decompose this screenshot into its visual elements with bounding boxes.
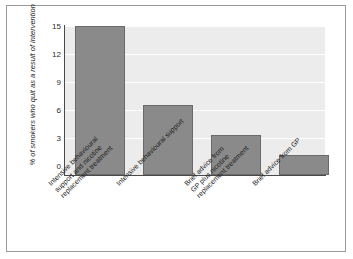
bar-series: [65, 26, 325, 175]
bar-intensive-behavioural-support[interactable]: [143, 105, 193, 175]
y-axis-line: [64, 25, 65, 176]
bar-brief-advice-from-gp[interactable]: [279, 155, 329, 175]
y-tick-label-3: 3: [43, 134, 61, 143]
bar-brief-advice-gp-plus-nrt[interactable]: [211, 135, 261, 175]
y-axis-ticks: 15 12 9 6 3 0: [37, 26, 61, 175]
y-tick-label-15: 15: [43, 22, 61, 31]
x-axis-line: [64, 175, 326, 176]
y-tick-label-9: 9: [43, 78, 61, 87]
plot-area: [65, 26, 325, 175]
y-tick-label-6: 6: [43, 106, 61, 115]
y-axis-title: % of smokers who quit as a result of int…: [28, 8, 37, 166]
bar-intensive-behavioural-support-and-nrt[interactable]: [75, 26, 125, 175]
figure-frame: 15 12 9 6 3 0 % of smokers who quit as a…: [6, 5, 346, 252]
y-tick-label-12: 12: [43, 50, 61, 59]
y-tick-label-0: 0: [43, 162, 61, 171]
